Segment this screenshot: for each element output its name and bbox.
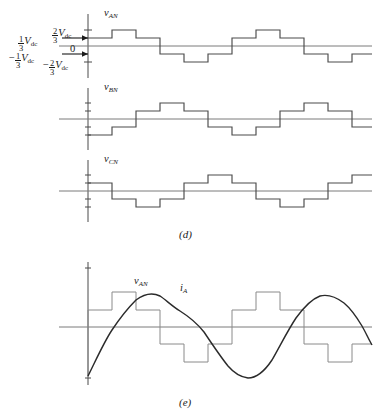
panel-caption-e: (e) (179, 396, 191, 408)
figure-six-step-inverter-waveforms: vAN 23Vdc 13Vdc 0 −13Vdc −23Vdc vBN vCN … (0, 0, 379, 420)
axis-tick-label-pos-two-thirds: 23Vdc (52, 22, 71, 45)
axis-tick-label-zero: 0 (70, 38, 75, 56)
axis-label-vcn: vCN (104, 148, 118, 166)
axis-tick-label-neg-two-thirds: −23Vdc (43, 54, 68, 77)
panel-caption-d: (d) (179, 228, 192, 240)
axis-label-van: vAN (104, 2, 118, 20)
axis-tick-label-neg-one-third: −13Vdc (9, 47, 34, 70)
axis-label-vbn: vBN (104, 76, 118, 94)
trace-label-ia: iA (180, 277, 187, 295)
trace-label-van-panel-e: vAN (134, 270, 148, 288)
